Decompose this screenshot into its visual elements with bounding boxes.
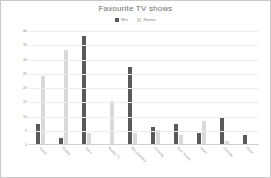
y-axis-tick-label: 30 [23, 58, 27, 62]
y-axis-tick-label: 40 [23, 29, 27, 33]
x-axis-label-cell: Soaps [29, 146, 52, 178]
gridline [29, 74, 259, 75]
gridline [29, 117, 259, 118]
x-axis-labels: SoapsDramaSportReality TVDocumentaryCook… [29, 146, 259, 178]
x-axis-label: Other [245, 146, 254, 155]
legend-label-women: Women [143, 18, 155, 22]
bar-women[interactable] [225, 141, 229, 144]
y-axis-tick-label: 10 [23, 115, 27, 119]
x-axis-label-cell: Quiz Shows [167, 146, 190, 178]
chart-legend: Men Women [1, 18, 270, 22]
y-axis-tick-label: 5 [25, 129, 27, 133]
gridline [29, 88, 259, 89]
x-axis-label: Reality TV [107, 146, 121, 160]
bar-men[interactable] [174, 124, 178, 144]
bar-men[interactable] [197, 133, 201, 144]
legend-swatch-men [115, 18, 119, 22]
bar-men[interactable] [151, 127, 155, 144]
bar-women[interactable] [156, 130, 160, 144]
x-axis-label: News [199, 146, 208, 155]
chart-title: Favourite TV shows [1, 4, 270, 13]
x-axis-label: Drama [61, 146, 71, 156]
x-axis-label-cell: Reality TV [98, 146, 121, 178]
x-axis-label: Sport [84, 146, 93, 155]
bar-men[interactable] [243, 135, 247, 144]
legend-swatch-women [137, 18, 141, 22]
gridline [29, 31, 259, 32]
x-axis-label-cell: Other [236, 146, 259, 178]
x-axis-label: Quiz Shows [176, 146, 192, 162]
grid-area [29, 31, 259, 145]
bar-women[interactable] [202, 121, 206, 144]
x-axis-label: Cooking [153, 146, 165, 158]
bar-men[interactable] [36, 124, 40, 144]
gridline [29, 45, 259, 46]
bar-women[interactable] [110, 101, 114, 144]
y-axis-tick-label: 35 [23, 43, 27, 47]
bar-men[interactable] [82, 36, 86, 144]
x-axis-label-cell: Comedy [213, 146, 236, 178]
x-axis-label: Soaps [38, 146, 48, 156]
gridline [29, 60, 259, 61]
gridline [29, 102, 259, 103]
x-axis-label: Comedy [222, 146, 234, 158]
x-axis-label-cell: Drama [52, 146, 75, 178]
plot-area: 0510152025303540 [16, 31, 259, 145]
bar-men[interactable] [59, 138, 63, 144]
bar-women[interactable] [179, 135, 183, 144]
chart-container: Favourite TV shows Men Women 05101520253… [0, 0, 271, 178]
x-axis-label-cell: Documentary [121, 146, 144, 178]
y-axis-tick-label: 20 [23, 86, 27, 90]
y-axis-tick-label: 15 [23, 100, 27, 104]
x-axis-label-cell: News [190, 146, 213, 178]
bar-men[interactable] [128, 67, 132, 144]
x-axis-label-cell: Cooking [144, 146, 167, 178]
bar-women[interactable] [41, 76, 45, 144]
y-axis-tick-label: 25 [23, 72, 27, 76]
legend-entry-women[interactable]: Women [137, 18, 155, 22]
bar-women[interactable] [133, 133, 137, 144]
x-axis-label-cell: Sport [75, 146, 98, 178]
gridline [29, 131, 259, 132]
y-axis: 0510152025303540 [16, 31, 29, 145]
bar-women[interactable] [87, 133, 91, 144]
legend-label-men: Men [121, 18, 128, 22]
y-axis-tick-label: 0 [25, 143, 27, 147]
legend-entry-men[interactable]: Men [115, 18, 128, 22]
